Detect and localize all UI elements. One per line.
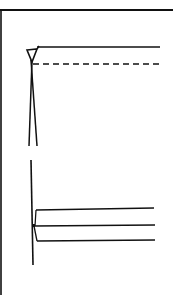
diagram-drawing <box>0 0 173 295</box>
bracket-upper <box>35 210 36 226</box>
vertical-line <box>31 160 33 265</box>
joint-dot <box>32 224 35 227</box>
horizontal-line-bottom <box>37 240 155 241</box>
sheet-frame <box>0 10 173 295</box>
upper-detail <box>27 46 162 146</box>
horizontal-line-middle <box>34 225 155 226</box>
converging-line-right <box>31 60 37 146</box>
lower-detail <box>31 160 155 265</box>
diagram-canvas <box>0 0 173 295</box>
bracket-lower <box>34 226 37 241</box>
horizontal-line-top <box>36 208 154 210</box>
